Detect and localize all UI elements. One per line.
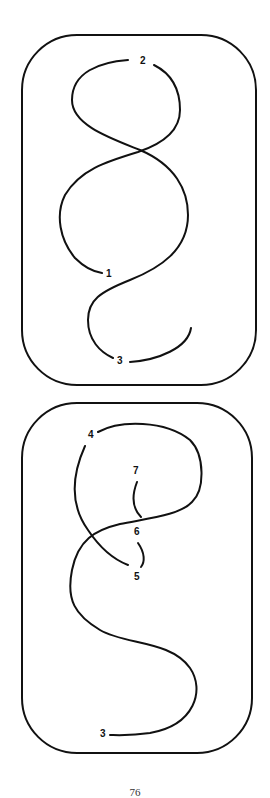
bottom-strand-c [134,482,141,517]
bottom-label-4: 4 [88,429,94,440]
bottom-label-5: 5 [134,571,140,582]
top-frame [22,35,256,385]
bottom-label-7: 7 [133,465,139,476]
top-strand-c [130,328,191,362]
bottom-label-6: 6 [134,526,140,537]
top-label-1: 1 [106,268,112,279]
top-label-2: 2 [140,55,146,66]
top-strand-b [60,65,180,273]
bottom-strand-b [75,446,128,565]
bottom-strand-d [138,543,144,567]
top-label-3: 3 [117,355,123,366]
bottom-label-3: 3 [100,728,106,739]
top-strand-a [72,60,188,358]
page-number: 76 [0,786,270,798]
